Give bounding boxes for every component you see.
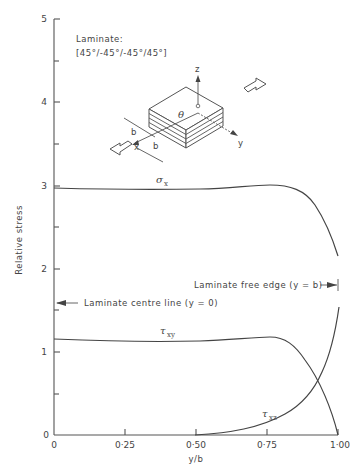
y-tick-3: 3 [41, 181, 47, 191]
svg-text:θ: θ [178, 109, 184, 120]
svg-text:x: x [164, 180, 168, 188]
svg-text:Laminate centre line (y = 0): Laminate centre line (y = 0) [84, 298, 218, 308]
arrow-up-icon [196, 75, 201, 82]
free-edge-annotation: Laminate free edge (y = b) [194, 279, 338, 291]
laminate-title: Laminate: [76, 34, 123, 44]
y-tick-5: 5 [41, 14, 47, 24]
svg-text:σ: σ [156, 174, 164, 185]
x-tick-0: 0 [51, 440, 57, 450]
svg-text:z: z [195, 64, 200, 74]
svg-text:b: b [153, 141, 159, 151]
x-axis-title: y/b [189, 454, 204, 464]
y-axis-title: Relative stress [14, 205, 24, 275]
x-tick-100: 1·00 [330, 440, 350, 450]
centre-line-annotation: Laminate centre line (y = 0) [56, 298, 218, 308]
x-tick-labels: 0 0·25 0·50 0·75 1·00 [51, 440, 350, 450]
y-tick-1: 1 [41, 347, 47, 357]
svg-text:b: b [131, 127, 137, 137]
curve-sigma-x [54, 185, 338, 256]
svg-text:τ: τ [160, 325, 166, 336]
curve-tau-xy [54, 337, 338, 435]
svg-text:xy: xy [167, 331, 175, 339]
arrow-y-icon [230, 130, 238, 136]
svg-text:Laminate free edge (y = b): Laminate free edge (y = b) [194, 280, 322, 290]
svg-text:τ: τ [262, 408, 268, 419]
arrow-left-icon [56, 300, 66, 306]
x-tick-075: 0·75 [257, 440, 277, 450]
x-tick-025: 0·25 [115, 440, 135, 450]
svg-text:xz: xz [269, 414, 277, 422]
y-tick-0: 0 [43, 430, 49, 440]
arrow-right-icon [327, 282, 337, 288]
svg-text:y: y [238, 138, 244, 148]
stress-chart: 5 4 3 2 1 0 0 0·25 0·50 0·75 1·00 y/b Re… [0, 0, 363, 473]
y-tick-labels: 5 4 3 2 1 0 [41, 14, 49, 440]
x-tick-050: 0·50 [186, 440, 206, 450]
svg-text:x: x [134, 142, 140, 152]
label-tau-xy: τ xy [160, 325, 175, 339]
label-sigma-x: σ x [156, 174, 168, 188]
y-tick-2: 2 [41, 264, 47, 274]
laminate-diagram: z y x θ b b [110, 64, 266, 162]
laminate-layup: [45°/-45°/-45°/45°] [76, 48, 167, 58]
load-arrow-left-icon [110, 141, 132, 155]
y-tick-4: 4 [41, 97, 47, 107]
load-arrow-right-icon [244, 78, 266, 92]
label-tau-xz: τ xz [262, 408, 277, 422]
